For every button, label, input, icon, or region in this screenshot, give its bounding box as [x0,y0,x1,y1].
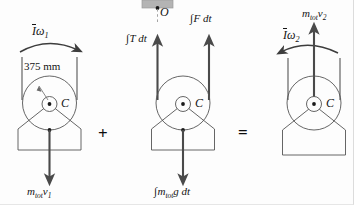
center-point-label-3: C [326,97,334,109]
i-bar-symbol-1: I [32,25,36,37]
center-point-label-2: C [195,97,203,109]
angular-momentum-arc-2 [281,45,338,53]
center-dot-2 [181,102,185,106]
mass-subscript-2: tot [310,13,318,22]
dimension-label-375mm: 375 mm [24,61,60,72]
figure-canvas [0,0,354,205]
plus-operator: + [98,124,108,144]
linear-momentum-label-1: mtotv1 [27,186,51,200]
panel-impulse [142,0,215,180]
center-dot-3 [312,102,316,106]
force-impulse-label: ∫F dt [190,13,212,24]
weight-impulse-rest: g dt [173,185,190,197]
radius-leader-1 [39,86,48,100]
mass-symbol-1: m [27,185,35,197]
tension-impulse-body: T dt [130,32,147,44]
i-bar-symbol-2: I [283,29,287,41]
omega-subscript-1: 1 [44,31,48,40]
angular-momentum-arc-1 [20,43,78,52]
angular-momentum-label-1: Iω1 [32,25,49,41]
velocity-subscript-2: 2 [323,13,327,22]
tension-impulse-label: ∫T dt [126,33,147,44]
linear-momentum-label-2: mtotv2 [302,8,326,22]
angular-momentum-label-2: Iω2 [283,29,300,45]
support-point-label-O: O [160,6,169,18]
panel-final-momentum [281,28,346,155]
impulse-momentum-figure: Iω1 375 mm C mtotv1 + O ∫T dt ∫F dt C ∫m… [0,0,354,205]
equals-operator: = [238,123,248,143]
velocity-subscript-1: 1 [48,191,52,200]
force-impulse-body: F dt [194,12,212,24]
omega-subscript-2: 2 [295,35,299,44]
mass-symbol-2: m [302,7,310,19]
weight-impulse-label: ∫mtotg dt [154,186,190,200]
center-dot-1 [48,102,52,106]
center-point-label-1: C [61,97,69,109]
mass-subscript-1: tot [35,191,43,200]
